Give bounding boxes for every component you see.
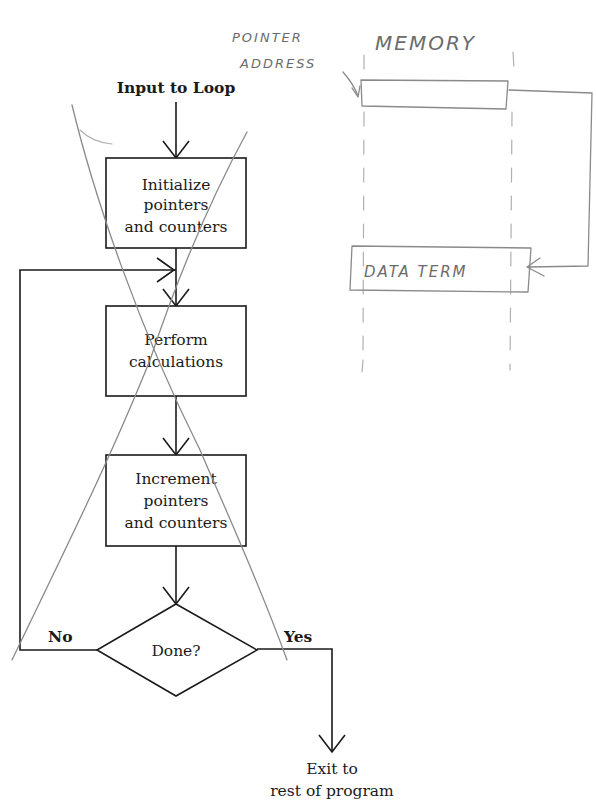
flowchart: Input to Loop Initialize pointers and co… <box>20 78 394 800</box>
exit-label-line-2: rest of program <box>270 782 394 800</box>
arrow-incr-to-decision <box>163 546 189 604</box>
step-initialize-line-1: Initialize <box>142 176 211 194</box>
arrow-input-to-init <box>163 102 189 158</box>
arrow-calc-to-incr <box>163 396 189 455</box>
arrow-yes-to-exit <box>257 649 345 752</box>
pointer-arrow-icon <box>343 72 360 97</box>
step-initialize-line-2: pointers <box>144 196 209 214</box>
input-to-loop-label: Input to Loop <box>117 78 236 97</box>
pointer-label-line-2: ADDRESS <box>239 56 316 71</box>
data-term-label: DATA TERM <box>364 263 468 281</box>
decision-done-label: Done? <box>151 642 200 660</box>
pointer-memory-cell <box>361 80 508 109</box>
exit-label-line-1: Exit to <box>306 760 358 778</box>
loop-flowchart-diagram: Input to Loop Initialize pointers and co… <box>0 0 596 808</box>
step-calculations-box: Perform calculations <box>106 306 246 396</box>
step-calculations-line-1: Perform <box>144 331 208 349</box>
step-calculations-line-2: calculations <box>129 353 223 371</box>
step-increment-line-2: pointers <box>144 492 209 510</box>
memory-label: MEMORY <box>375 31 476 55</box>
arrow-init-to-calc <box>163 248 189 306</box>
step-initialize-box: Initialize pointers and counters <box>106 158 246 248</box>
decision-yes-label: Yes <box>283 627 313 646</box>
step-initialize-line-3: and counters <box>125 218 228 236</box>
step-increment-line-1: Increment <box>135 470 217 488</box>
decision-done-diamond: Done? <box>97 604 257 696</box>
step-increment-line-3: and counters <box>125 514 228 532</box>
pointer-label-line-1: POINTER <box>232 30 303 45</box>
decision-no-label: No <box>48 627 73 646</box>
pointer-to-data-connector <box>509 90 592 267</box>
memory-sketch: POINTER ADDRESS MEMORY DATA TERM <box>232 30 592 372</box>
step-increment-box: Increment pointers and counters <box>106 455 246 546</box>
